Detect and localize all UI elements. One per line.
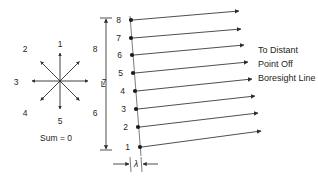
star-vector-2-arrow — [41, 62, 60, 81]
star-label-2: 2 — [23, 44, 28, 54]
star-vector-4-arrow — [41, 81, 60, 100]
length-dimension-label: L — [101, 79, 106, 89]
star-label-6: 6 — [93, 108, 98, 118]
spacing-extension-left — [130, 157, 131, 172]
star-label-8: 8 — [93, 44, 98, 54]
sum-equals-zero-label: Sum = 0 — [40, 133, 72, 143]
star-vector-6-arrow — [60, 81, 79, 100]
star-diagram-group: 1 2 3 4 5 6 7 8 Sum = 0 — [14, 39, 107, 143]
ray-from-element-6 — [134, 45, 244, 55]
element-label-4: 4 — [120, 86, 125, 96]
wavelength-spacing-label: λ — [133, 159, 138, 169]
star-label-3: 3 — [14, 77, 19, 87]
element-label-8: 8 — [116, 15, 121, 25]
ray-from-element-5 — [135, 62, 248, 73]
ray-from-element-3 — [138, 96, 255, 109]
length-dimension: L — [100, 18, 112, 150]
element-label-1: 1 — [125, 142, 130, 152]
spacing-dimension: λ — [113, 157, 158, 172]
element-label-3: 3 — [121, 104, 126, 114]
caption-line-1: To Distant — [258, 45, 299, 55]
star-vector-8-arrow — [60, 62, 79, 81]
star-label-5: 5 — [58, 116, 63, 126]
element-label-7: 7 — [116, 33, 121, 43]
technical-diagram-svg: 1 2 3 4 5 6 7 8 Sum = 0 L — [0, 0, 318, 179]
ray-from-element-2 — [140, 113, 258, 127]
ray-from-element-8 — [133, 11, 239, 20]
caption-line-3: Boresight Line — [258, 73, 316, 83]
figure-root: 1 2 3 4 5 6 7 8 Sum = 0 L — [0, 0, 318, 179]
element-dot-4 — [133, 89, 137, 93]
element-dot-1 — [138, 145, 142, 149]
element-labels: 8 7 6 5 4 3 2 1 — [116, 15, 130, 152]
element-dot-6 — [130, 53, 134, 57]
element-dot-3 — [134, 107, 138, 111]
element-dot-5 — [131, 71, 135, 75]
element-label-2: 2 — [123, 122, 128, 132]
star-label-1: 1 — [58, 39, 63, 49]
array-diagram-group: L 8 7 6 5 4 3 2 1 — [100, 11, 316, 172]
star-label-4: 4 — [23, 108, 28, 118]
element-dot-7 — [129, 36, 133, 40]
element-dot-8 — [129, 18, 133, 22]
ray-from-element-1 — [142, 131, 261, 147]
element-label-6: 6 — [117, 50, 122, 60]
ray-from-element-4 — [137, 79, 252, 91]
caption-line-2: Point Off — [258, 59, 293, 69]
star-vector-arrows — [32, 53, 88, 109]
wavefront-rays — [133, 11, 261, 147]
element-dot-2 — [136, 125, 140, 129]
element-label-5: 5 — [118, 68, 123, 78]
distant-point-caption: To Distant Point Off Boresight Line — [258, 45, 316, 83]
ray-from-element-7 — [133, 29, 241, 38]
spacing-extension-right — [141, 157, 142, 172]
